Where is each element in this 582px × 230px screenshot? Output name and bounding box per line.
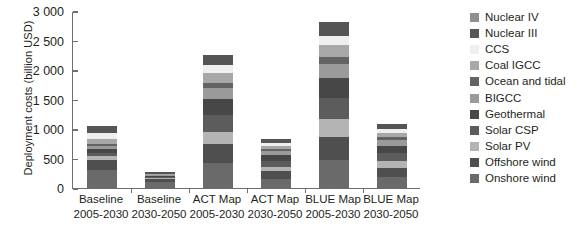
x-label-scenario: ACT Map (193, 193, 241, 205)
legend-label: Geothermal (485, 108, 545, 121)
legend-item[interactable]: Solar CSP (470, 122, 582, 138)
x-label-scenario: ACT Map (251, 193, 299, 205)
legend-item[interactable]: Ocean and tidal (470, 74, 582, 90)
legend-item[interactable]: Coal IGCC (470, 58, 582, 74)
y-tick-label: 1 000 (33, 122, 64, 138)
y-tick-label: 2 000 (33, 63, 64, 79)
x-label-period: 2005-2030 (72, 207, 130, 222)
y-tick-mark (73, 188, 78, 189)
y-tick-mark (73, 11, 78, 12)
x-axis-labels: Baseline2005-2030Baseline2030-2050ACT Ma… (72, 192, 420, 228)
plot-area: 05001 0001 5002 0002 5003 000 (72, 12, 420, 189)
y-tick-mark (73, 41, 78, 42)
x-label-period: 2030-2050 (362, 207, 420, 222)
bar-segment (203, 144, 233, 163)
legend-label: Offshore wind (485, 156, 556, 169)
bar-segment (203, 88, 233, 99)
bar-segment (203, 132, 233, 144)
legend-label: Ocean and tidal (485, 75, 566, 88)
legend-item[interactable]: Nuclear IV (470, 9, 582, 25)
legend-swatch-icon (470, 29, 479, 38)
bar-segment (377, 161, 407, 168)
legend-label: Onshore wind (485, 172, 556, 185)
x-label-period: 2005-2030 (188, 207, 246, 222)
y-tick-label: 500 (43, 152, 64, 168)
legend-label: Nuclear IV (485, 11, 539, 24)
legend-item[interactable]: Geothermal (470, 106, 582, 122)
bar-2 (145, 172, 175, 188)
bar-3 (203, 55, 233, 188)
bar-segment (377, 153, 407, 161)
bar-segment (203, 55, 233, 66)
bar-segment (87, 170, 117, 188)
bar-segment (319, 78, 349, 97)
x-label-scenario: BLUE Map (363, 193, 419, 205)
y-tick-label: 2 500 (33, 34, 64, 50)
bar-4 (261, 139, 291, 188)
legend-label: Solar PV (485, 140, 530, 153)
bar-segment (319, 160, 349, 188)
bar-segment (261, 171, 291, 178)
chart-figure: Deployment costs (billion USD) 05001 000… (0, 0, 582, 230)
legend-swatch-icon (470, 126, 479, 135)
legend-item[interactable]: Offshore wind (470, 155, 582, 171)
bar-segment (377, 177, 407, 188)
legend-swatch-icon (470, 45, 479, 54)
legend-item[interactable]: CCS (470, 41, 582, 57)
bar-segment (319, 137, 349, 160)
legend-item[interactable]: Onshore wind (470, 171, 582, 187)
x-axis-label: BLUE Map2005-2030 (304, 192, 362, 222)
bar-segment (377, 168, 407, 177)
x-label-period: 2005-2030 (304, 207, 362, 222)
bar-segment (203, 99, 233, 115)
bar-segment (145, 182, 175, 188)
bar-segment (319, 45, 349, 57)
x-axis-label: BLUE Map2030-2050 (362, 192, 420, 222)
y-tick-mark (73, 70, 78, 71)
legend-swatch-icon (470, 158, 479, 167)
bar-segment (203, 115, 233, 132)
legend-item[interactable]: Solar PV (470, 139, 582, 155)
legend-item[interactable]: BIGCC (470, 90, 582, 106)
legend-swatch-icon (470, 94, 479, 103)
legend-swatch-icon (470, 77, 479, 86)
bar-segment (261, 179, 291, 188)
bar-segment (203, 163, 233, 188)
bar-5 (319, 22, 349, 188)
bar-1 (87, 126, 117, 188)
y-tick-label: 3 000 (33, 4, 64, 20)
y-tick-label: 1 500 (33, 93, 64, 109)
x-axis-label: Baseline2005-2030 (72, 192, 130, 222)
bar-segment (319, 64, 349, 78)
bar-segment (87, 126, 117, 133)
legend-swatch-icon (470, 174, 479, 183)
x-label-scenario: Baseline (79, 193, 123, 205)
bar-segment (87, 160, 117, 170)
y-tick-label: 0 (57, 181, 64, 197)
bar-6 (377, 124, 407, 188)
legend-label: Nuclear III (485, 27, 537, 40)
bar-segment (377, 146, 407, 154)
y-tick-mark (73, 129, 78, 130)
x-label-scenario: Baseline (137, 193, 181, 205)
bar-segment (319, 98, 349, 119)
bar-segment (203, 73, 233, 83)
legend-swatch-icon (470, 13, 479, 22)
x-axis-label: ACT Map2030-2050 (246, 192, 304, 222)
bar-segment (319, 119, 349, 137)
legend-item[interactable]: Nuclear III (470, 25, 582, 41)
legend-swatch-icon (470, 110, 479, 119)
bar-segment (203, 65, 233, 72)
legend-label: Solar CSP (485, 124, 539, 137)
y-tick-mark (73, 159, 78, 160)
legend-swatch-icon (470, 142, 479, 151)
legend-swatch-icon (470, 61, 479, 70)
x-label-period: 2030-2050 (246, 207, 304, 222)
chart-legend: Nuclear IVNuclear IIICCSCoal IGCCOcean a… (470, 9, 582, 187)
legend-label: Coal IGCC (485, 59, 541, 72)
y-tick-mark (73, 100, 78, 101)
legend-label: BIGCC (485, 92, 521, 105)
x-label-period: 2030-2050 (130, 207, 188, 222)
x-label-scenario: BLUE Map (305, 193, 361, 205)
x-axis-label: ACT Map2005-2030 (188, 192, 246, 222)
